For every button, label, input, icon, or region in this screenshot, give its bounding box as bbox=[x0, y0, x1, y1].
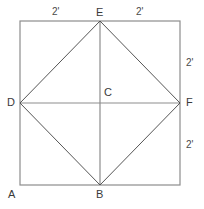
vertex-label-a: A bbox=[8, 189, 15, 200]
dimension-label-right-lower: 2' bbox=[186, 139, 193, 150]
dimension-label-right-upper: 2' bbox=[186, 57, 193, 68]
vertex-label-d: D bbox=[7, 97, 15, 108]
vertex-label-c: C bbox=[104, 87, 112, 98]
vertex-label-b: B bbox=[96, 189, 103, 200]
vertex-label-f: F bbox=[186, 97, 193, 108]
vertex-label-e: E bbox=[96, 7, 103, 18]
geometry-figure: A B C D E F 2' 2' 2' 2' bbox=[0, 0, 204, 209]
dimension-label-top-right: 2' bbox=[136, 6, 143, 17]
figure-canvas bbox=[0, 0, 204, 209]
line-F-B bbox=[100, 103, 180, 185]
dimension-label-top-left: 2' bbox=[52, 6, 59, 17]
line-B-D bbox=[20, 103, 100, 185]
line-E-F bbox=[100, 21, 180, 103]
line-D-E bbox=[20, 21, 100, 103]
